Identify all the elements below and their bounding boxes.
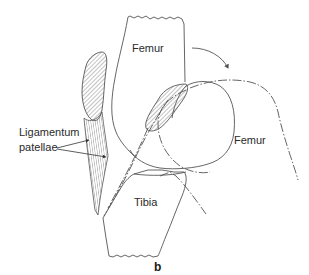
patella-flexed [146, 84, 188, 131]
rotation-arrow [192, 48, 228, 68]
label-femur-lower: Femur [234, 134, 266, 146]
label-ligamentum: Ligamentum [19, 126, 80, 138]
patella-extended [82, 52, 107, 121]
panel-label: b [154, 260, 161, 274]
label-patellae: patellae [19, 141, 58, 153]
ligamentum-patellae-extended [84, 112, 108, 215]
tibia-outline [103, 170, 186, 257]
knee-joint-diagram: Femur Femur Tibia Ligamentum patellae b [0, 0, 309, 275]
label-tibia: Tibia [134, 196, 158, 208]
label-femur-upper: Femur [132, 42, 164, 54]
